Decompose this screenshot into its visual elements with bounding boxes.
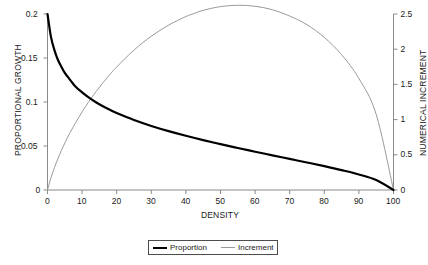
y2-axis-title: NUMERICAL INCREMENT [418,50,428,156]
series-line-proportion [48,14,394,190]
legend-swatch-increment [221,247,235,248]
chart-legend: Proportion Increment [148,240,278,255]
y-tick-label: 0 [36,186,41,195]
x-tick-label: 60 [250,197,259,206]
legend-label-increment: Increment [238,244,274,252]
y2-tick-label: 1 [401,115,406,124]
y-axis-title: PROPORTIONAL GROWTH [13,44,23,156]
x-tick-label: 40 [181,197,190,206]
x-tick-label: 50 [216,197,225,206]
y-tick-label: 0.15 [21,54,38,63]
x-tick-label: 10 [77,197,86,206]
x-tick-label: 80 [319,197,328,206]
x-tick-label: 30 [146,197,155,206]
x-tick-label: 90 [354,197,363,206]
y-tick-label: 0.1 [26,98,38,107]
x-tick-label: 70 [285,197,294,206]
legend-item-proportion: Proportion [153,241,207,254]
legend-swatch-proportion [153,247,167,249]
y2-tick-label: 2 [401,45,406,54]
y2-tick-label: 1.5 [401,80,413,89]
x-tick-label: 100 [386,197,400,206]
x-tick-label: 0 [45,197,50,206]
y2-tick-label: 0 [401,186,406,195]
y2-tick-label: 2.5 [401,10,413,19]
x-axis-title: DENSITY [201,210,239,220]
x-tick-label: 20 [112,197,121,206]
legend-item-increment: Increment [221,241,274,254]
y-tick-label: 0.2 [26,10,38,19]
series-line-increment [48,5,394,190]
y-tick-label: 0.05 [21,142,38,151]
legend-label-proportion: Proportion [170,244,207,252]
y2-tick-label: 0.5 [401,150,413,159]
